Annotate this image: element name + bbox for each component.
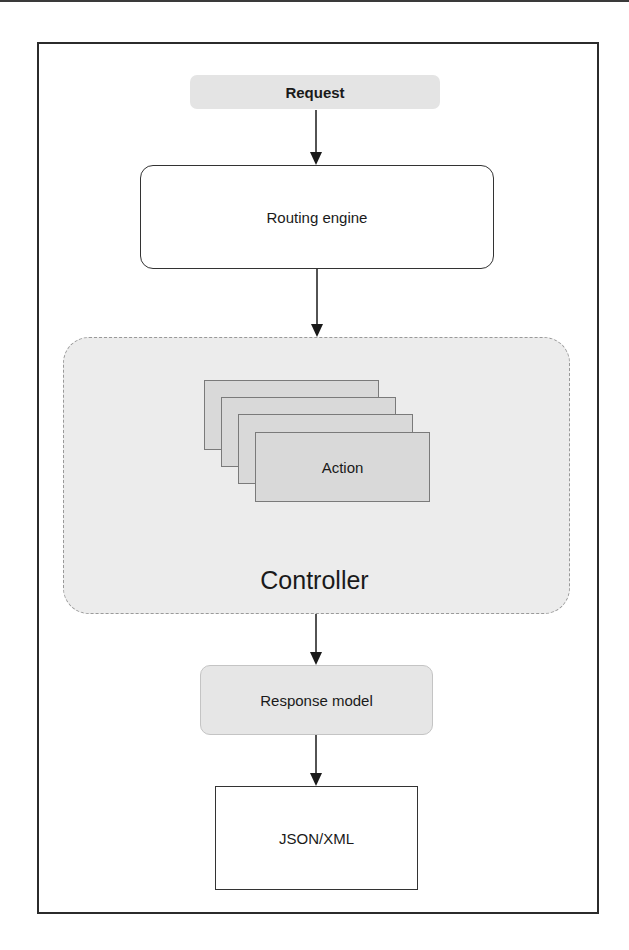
- action-card: Action: [255, 432, 430, 502]
- json-xml-label: JSON/XML: [279, 830, 354, 847]
- controller-label: Controller: [0, 566, 629, 595]
- request-label: Request: [285, 84, 344, 101]
- response-model-label: Response model: [260, 692, 373, 709]
- response-model-node: Response model: [200, 665, 433, 735]
- json-xml-node: JSON/XML: [215, 786, 418, 890]
- routing-engine-node: Routing engine: [140, 165, 494, 269]
- routing-engine-label: Routing engine: [267, 209, 368, 226]
- top-rule: [0, 0, 629, 2]
- action-label: Action: [322, 459, 364, 476]
- request-node: Request: [190, 75, 440, 109]
